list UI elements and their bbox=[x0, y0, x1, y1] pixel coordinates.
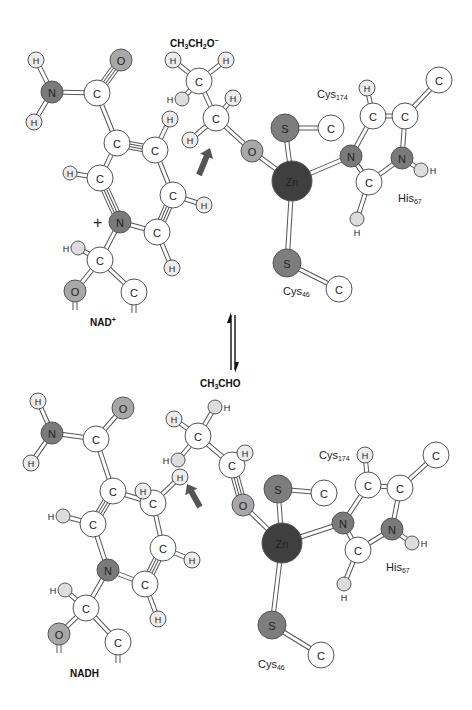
atom-h: H bbox=[337, 577, 351, 603]
atom-n: N bbox=[41, 81, 63, 103]
svg-text:H: H bbox=[177, 473, 184, 483]
atom-c: C bbox=[355, 472, 381, 498]
atom-h: H bbox=[50, 583, 72, 597]
svg-text:H: H bbox=[224, 403, 231, 413]
atom-c: C bbox=[185, 423, 211, 449]
svg-text:S: S bbox=[268, 620, 275, 632]
atom-c: C bbox=[345, 537, 371, 563]
bottom-his67-label: His67 bbox=[386, 561, 410, 574]
atom-h: H bbox=[165, 52, 181, 68]
atom-c: C bbox=[311, 480, 337, 506]
svg-text:C: C bbox=[364, 480, 372, 492]
atom-n: N bbox=[41, 422, 63, 444]
svg-text:C: C bbox=[228, 460, 236, 472]
atom-c: C bbox=[326, 276, 352, 302]
atom-c: C bbox=[150, 535, 176, 561]
top-his67-label: His67 bbox=[398, 192, 422, 205]
truncated-bond-stub bbox=[73, 302, 77, 310]
svg-text:C: C bbox=[151, 145, 159, 157]
svg-text:H: H bbox=[155, 615, 162, 625]
svg-text:C: C bbox=[141, 579, 149, 591]
atom-h: H bbox=[237, 445, 253, 461]
svg-text:C: C bbox=[96, 173, 104, 185]
svg-text:H: H bbox=[341, 593, 348, 603]
atom-h: H bbox=[184, 552, 200, 568]
svg-text:C: C bbox=[159, 543, 167, 555]
atom-h: H bbox=[26, 114, 42, 130]
svg-text:H: H bbox=[31, 118, 38, 128]
svg-text:H: H bbox=[33, 56, 40, 66]
atom-c: C bbox=[318, 115, 344, 141]
bottom-compound-label: CH3CHO bbox=[200, 378, 241, 390]
atom-c: C bbox=[132, 571, 158, 597]
atoms-layer: HNHOCCCHCHNCHCHCHOCCHHHCHHOZnSCNCHNHCHCC… bbox=[23, 49, 452, 668]
atom-c: C bbox=[423, 442, 449, 468]
svg-text:C: C bbox=[396, 483, 404, 495]
svg-text:C: C bbox=[401, 111, 409, 123]
svg-text:N: N bbox=[116, 217, 124, 229]
atom-h: H bbox=[225, 90, 241, 106]
atom-h: H bbox=[208, 400, 230, 414]
hydride-arrow-icon bbox=[185, 484, 202, 508]
svg-text:S: S bbox=[274, 484, 281, 496]
atom-h: H bbox=[150, 611, 166, 627]
nitrogen-positive-charge: + bbox=[93, 214, 102, 231]
svg-text:O: O bbox=[71, 286, 80, 298]
svg-text:N: N bbox=[347, 151, 355, 163]
atom-c: C bbox=[308, 642, 334, 668]
svg-text:S: S bbox=[283, 258, 290, 270]
svg-text:C: C bbox=[149, 498, 157, 510]
svg-text:C: C bbox=[354, 545, 362, 557]
atom-h: H bbox=[163, 453, 185, 467]
svg-text:O: O bbox=[119, 403, 128, 415]
truncated-bond-stub bbox=[57, 645, 61, 653]
svg-text:C: C bbox=[212, 113, 220, 125]
svg-text:H: H bbox=[48, 512, 55, 522]
atom-h: H bbox=[350, 212, 364, 238]
atom-h: H bbox=[63, 166, 77, 180]
alcohol-dehydrogenase-mechanism-diagram: HNHOCCCHCHNCHCHCHOCCHHHCHHOZnSCNCHNHCHCC… bbox=[0, 0, 472, 710]
atom-o: O bbox=[241, 140, 263, 162]
svg-text:H: H bbox=[201, 201, 208, 211]
atom-o: O bbox=[64, 280, 86, 302]
atom-h: H bbox=[196, 197, 212, 213]
atom-s: S bbox=[264, 475, 292, 503]
atom-n: N bbox=[332, 512, 354, 534]
svg-text:H: H bbox=[362, 451, 369, 461]
atom-h: H bbox=[48, 509, 70, 523]
svg-text:C: C bbox=[365, 177, 373, 189]
atom-c: C bbox=[80, 511, 106, 537]
truncated-bond-stub bbox=[132, 305, 136, 313]
atom-c: C bbox=[87, 247, 113, 273]
svg-text:C: C bbox=[82, 603, 90, 615]
atom-h: H bbox=[172, 469, 188, 485]
atom-c: C bbox=[203, 105, 229, 131]
svg-text:C: C bbox=[432, 450, 440, 462]
atom-c: C bbox=[186, 68, 212, 94]
svg-text:H: H bbox=[163, 456, 170, 466]
atom-h: H bbox=[135, 483, 151, 499]
svg-text:C: C bbox=[93, 88, 101, 100]
svg-text:C: C bbox=[317, 650, 325, 662]
atom-c: C bbox=[84, 80, 110, 106]
bottom-cys174-label: Cys174 bbox=[319, 449, 350, 462]
svg-text:C: C bbox=[435, 75, 443, 87]
svg-text:H: H bbox=[167, 115, 174, 125]
atom-h: H bbox=[167, 92, 189, 106]
atom-c: C bbox=[144, 219, 170, 245]
atom-c: C bbox=[104, 130, 130, 156]
svg-text:C: C bbox=[327, 123, 335, 135]
truncated-bond-stub bbox=[116, 655, 120, 663]
svg-text:C: C bbox=[369, 111, 377, 123]
svg-text:O: O bbox=[248, 146, 257, 158]
svg-text:H: H bbox=[187, 136, 194, 146]
svg-text:Zn: Zn bbox=[286, 176, 299, 188]
atom-c: C bbox=[83, 426, 109, 452]
atom-h: H bbox=[164, 260, 180, 276]
atom-c: C bbox=[160, 182, 186, 208]
svg-text:H: H bbox=[223, 56, 230, 66]
atom-h: H bbox=[63, 241, 85, 255]
svg-text:H: H bbox=[364, 84, 371, 94]
svg-text:C: C bbox=[89, 519, 97, 531]
bottom-cys46-label: Cys46 bbox=[258, 658, 285, 671]
